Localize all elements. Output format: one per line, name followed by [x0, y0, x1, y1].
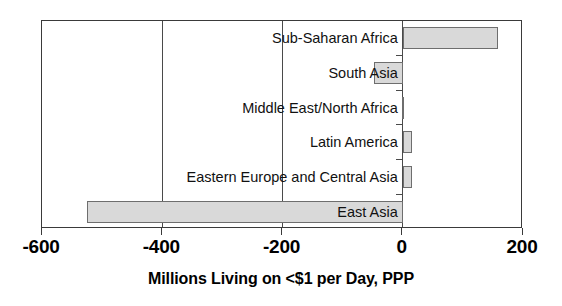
chart-figure: Sub-Saharan AfricaSouth AsiaMiddle East/…: [0, 0, 562, 306]
bar-row: Middle East/North Africa: [42, 90, 521, 125]
bar[interactable]: [403, 166, 412, 188]
category-label: Sub-Saharan Africa: [272, 31, 398, 46]
x-tick-label: 200: [507, 236, 538, 258]
bar[interactable]: [403, 27, 498, 49]
category-label: Latin America: [310, 135, 398, 150]
bar-row: Sub-Saharan Africa: [42, 21, 521, 56]
x-tick-200: [522, 228, 523, 235]
bar-row: South Asia: [42, 56, 521, 91]
bar-row: Latin America: [42, 125, 521, 160]
x-tick--600: [41, 228, 42, 235]
x-tick--200: [281, 228, 282, 235]
x-tick-label: 0: [397, 236, 407, 258]
x-tick--400: [161, 228, 162, 235]
x-tick-label: -400: [143, 236, 180, 258]
bar[interactable]: [402, 97, 404, 119]
category-label: Middle East/North Africa: [242, 100, 398, 115]
x-tick-label: -600: [23, 236, 60, 258]
x-axis-label: Millions Living on <$1 per Day, PPP: [0, 270, 562, 288]
bar[interactable]: [403, 131, 412, 153]
bar-row: Eastern Europe and Central Asia: [42, 160, 521, 195]
category-label: East Asia: [337, 204, 397, 219]
bar-row: East Asia: [42, 194, 521, 229]
category-label: South Asia: [328, 66, 397, 81]
x-tick-label: -200: [263, 236, 300, 258]
category-label: Eastern Europe and Central Asia: [187, 170, 398, 185]
x-tick-0: [401, 228, 402, 235]
plot-area: Sub-Saharan AfricaSouth AsiaMiddle East/…: [41, 20, 522, 228]
